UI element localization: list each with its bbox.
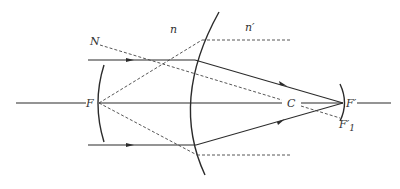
arrow-refracted-bottom: [277, 119, 285, 125]
dashed-line-c-to-f1prime: [301, 106, 340, 118]
optics-diagram: N n n′ F C F′ F′1: [0, 0, 400, 189]
arrow-incoming-top: [126, 58, 134, 62]
dashed-line-f-to-bottom: [99, 103, 197, 155]
label-f1-prime: F′1: [338, 118, 355, 133]
refracted-ray-bottom: [196, 103, 343, 145]
refracting-surface-arc: [190, 12, 219, 175]
arrow-incoming-bottom: [126, 143, 134, 147]
label-f: F: [85, 97, 94, 110]
label-c: C: [287, 97, 296, 110]
refracted-ray-top: [195, 60, 343, 103]
label-n-point: N: [89, 35, 100, 48]
label-n-index: n: [170, 23, 177, 36]
label-f1-prime-base: F′: [338, 118, 350, 131]
label-n-prime-index: n′: [245, 21, 255, 34]
label-f1-prime-subscript: 1: [349, 123, 355, 133]
label-f-prime: F′: [345, 97, 357, 110]
